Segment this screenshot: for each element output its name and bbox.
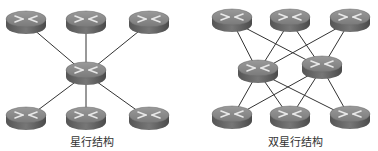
router-icon-dual-star-t2 [270,9,310,32]
router-icon-dual-star-b2 [270,106,310,129]
router-icon-dual-star-c2 [302,56,342,79]
router-icon-star-c [66,62,106,85]
router-icon-dual-star-t1 [212,9,252,32]
router-icon-dual-star-c1 [238,60,278,83]
router-icon-star-t2 [66,11,106,34]
router-icon-dual-star-b1 [212,106,252,129]
router-icon-dual-star-t3 [330,9,370,32]
router-icon-dual-star-b3 [330,106,370,129]
router-icon-star-b2 [66,107,106,130]
router-icon-star-b3 [129,107,169,130]
router-icon-star-t1 [6,11,46,34]
network-topology-canvas [0,0,378,151]
router-icon-star-t3 [129,11,169,34]
nodes-layer [6,9,370,130]
caption-dual-star-topology: 双星行结构 [268,133,323,149]
router-icon-star-b1 [6,107,46,130]
caption-star-topology: 星行结构 [70,133,114,149]
